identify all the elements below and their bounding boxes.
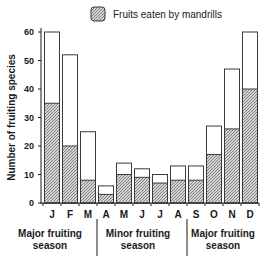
bar-eaten — [45, 103, 60, 203]
y-tick-label: 40 — [24, 84, 34, 94]
x-tick-label: A — [102, 209, 109, 220]
bars — [45, 32, 258, 203]
legend-swatch-hatched — [91, 7, 105, 21]
season-label: season — [206, 240, 240, 251]
bar-eaten — [225, 129, 240, 203]
season-label: Major fruiting — [191, 228, 255, 239]
bar-J — [135, 169, 150, 203]
x-tick-label: N — [228, 209, 235, 220]
bar-eaten — [117, 175, 132, 204]
y-tick-label: 0 — [29, 198, 34, 208]
x-axis: JFMAMJJASOND — [41, 203, 259, 220]
x-tick-label: A — [174, 209, 181, 220]
bar-eaten — [243, 89, 258, 203]
x-tick-label: J — [49, 209, 55, 220]
bar-M — [81, 132, 96, 203]
bar-eaten — [189, 180, 204, 203]
bar-eaten — [207, 155, 222, 203]
bar-D — [243, 32, 258, 203]
bar-chart: Fruits eaten by mandrills 0102030405060N… — [0, 0, 263, 260]
season-label: Major fruiting — [18, 228, 82, 239]
bar-eaten — [63, 146, 78, 203]
y-tick-label: 60 — [24, 27, 34, 37]
x-tick-label: F — [67, 209, 73, 220]
x-tick-label: O — [210, 209, 218, 220]
legend: Fruits eaten by mandrills — [91, 7, 222, 21]
season-label: season — [121, 240, 155, 251]
x-tick-label: D — [246, 209, 253, 220]
bar-N — [225, 69, 240, 203]
bar-eaten — [153, 183, 168, 203]
y-axis: 0102030405060Number of fruiting species — [6, 27, 41, 208]
season-label: Minor fruiting — [106, 228, 170, 239]
y-tick-label: 30 — [24, 113, 34, 123]
bar-M — [117, 163, 132, 203]
bar-eaten — [99, 194, 114, 203]
x-tick-label: M — [84, 209, 92, 220]
x-tick-label: M — [120, 209, 128, 220]
season-annotations: Major fruitingseasonMinor fruitingseason… — [18, 219, 255, 256]
legend-label: Fruits eaten by mandrills — [113, 9, 222, 20]
y-tick-label: 20 — [24, 141, 34, 151]
bar-eaten — [81, 180, 96, 203]
x-tick-label: J — [157, 209, 163, 220]
y-axis-title: Number of fruiting species — [6, 54, 17, 181]
y-tick-label: 10 — [24, 170, 34, 180]
bar-S — [189, 166, 204, 203]
bar-F — [63, 55, 78, 203]
y-tick-label: 50 — [24, 56, 34, 66]
x-tick-label: J — [139, 209, 145, 220]
bar-eaten — [135, 177, 150, 203]
bar-A — [171, 166, 186, 203]
season-label: season — [33, 240, 67, 251]
bar-eaten — [171, 180, 186, 203]
bar-J — [45, 32, 60, 203]
x-tick-label: S — [193, 209, 200, 220]
bar-A — [99, 186, 114, 203]
bar-J — [153, 175, 168, 204]
bar-O — [207, 126, 222, 203]
